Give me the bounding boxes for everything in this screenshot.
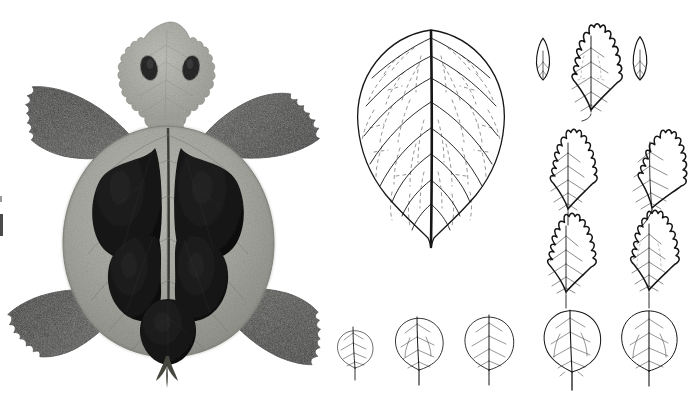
illustration-plate (0, 0, 695, 408)
leaf-drawing-bud-scale-right (633, 37, 647, 80)
leaf-drawing-serrate-3 (548, 213, 597, 308)
leaf-drawing-orbicular-3 (465, 315, 514, 385)
leaf-drawing-serrate-center (572, 24, 622, 121)
leaf-drawing-orbicular-5 (622, 311, 677, 386)
leaf-drawing-serrate-1 (550, 129, 597, 225)
leaf-drawing-serrate-4 (631, 210, 680, 308)
leaf-drawing-orbicular-2 (395, 317, 443, 385)
leaf-drawing-serrate-2 (633, 126, 693, 227)
leaf-drawing-bud-scale-left (536, 38, 549, 80)
left-edge-mark (0, 214, 3, 236)
leaf-drawing-orbicular-4 (544, 310, 601, 390)
leaf-outline-drawings (0, 0, 695, 408)
left-edge-mark-small (0, 196, 2, 202)
leaf-drawing-large (358, 30, 505, 247)
leaf-drawing-orbicular-1 (337, 327, 373, 380)
